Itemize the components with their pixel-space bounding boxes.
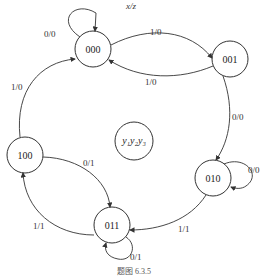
- transition-label: 1/0: [150, 27, 162, 37]
- state-label: 001: [223, 54, 238, 65]
- transition-label: 0/1: [130, 252, 142, 262]
- transition-label: 1/0: [145, 77, 157, 87]
- transition-label: 0/0: [232, 112, 244, 122]
- state-010: 010: [195, 160, 231, 196]
- state-011: 011: [94, 207, 130, 243]
- transition-100-011: [43, 157, 110, 207]
- transition-001-000: [109, 60, 213, 76]
- figure-caption: 题图 6.3.5: [117, 267, 151, 276]
- state-label: 100: [18, 150, 33, 161]
- state-var-label: y₁y₂y₃: [121, 135, 146, 146]
- transition-label: 1/1: [33, 221, 45, 231]
- state-diagram: x/z 000 001 010 011 100 y₁y₂y₃ 0/0 1/0 1…: [0, 0, 267, 276]
- transition-010-011: [130, 195, 206, 230]
- state-label: 010: [206, 173, 221, 184]
- state-variable-legend: y₁y₂y₃: [115, 122, 153, 160]
- state-label: 011: [105, 220, 120, 231]
- transition-label: 0/0: [248, 165, 260, 175]
- transition-label: 0/1: [83, 158, 95, 168]
- state-100: 100: [7, 137, 43, 173]
- transition-100-000: [19, 59, 75, 137]
- state-001: 001: [212, 41, 248, 77]
- transition-label: 0/0: [44, 29, 56, 39]
- io-label: x/z: [125, 1, 136, 11]
- transition-label: 1/0: [11, 82, 23, 92]
- transition-label: 1/1: [178, 224, 190, 234]
- state-label: 000: [86, 44, 101, 55]
- transition-001-010: [216, 76, 230, 160]
- state-000: 000: [75, 31, 111, 67]
